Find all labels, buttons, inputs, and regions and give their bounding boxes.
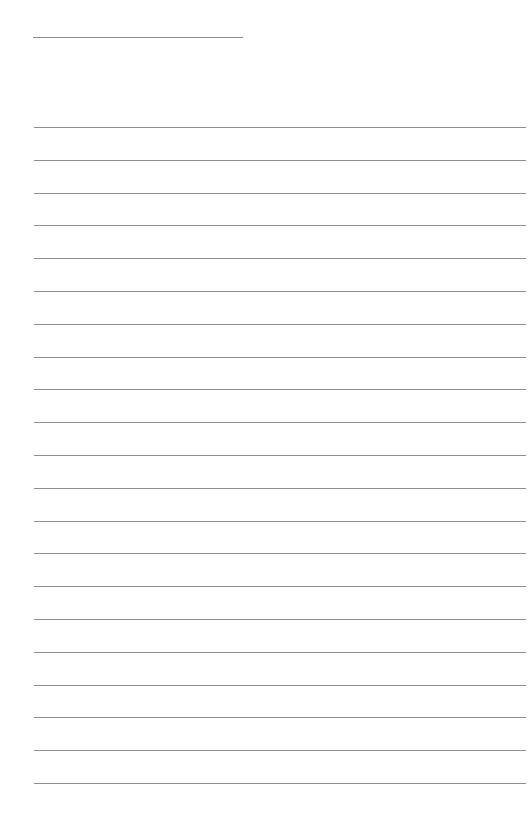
writing-line[interactable]: [34, 193, 526, 194]
writing-line[interactable]: [34, 750, 526, 751]
writing-line[interactable]: [34, 225, 526, 226]
writing-line[interactable]: [34, 717, 526, 718]
writing-line[interactable]: [34, 422, 526, 423]
writing-line[interactable]: [34, 127, 526, 128]
writing-line[interactable]: [34, 685, 526, 686]
writing-line[interactable]: [34, 291, 526, 292]
writing-line[interactable]: [34, 455, 526, 456]
writing-line[interactable]: [34, 488, 526, 489]
writing-line[interactable]: [34, 553, 526, 554]
writing-line[interactable]: [34, 160, 526, 161]
writing-line[interactable]: [34, 619, 526, 620]
writing-line[interactable]: [34, 652, 526, 653]
writing-line[interactable]: [34, 389, 526, 390]
lined-page: [0, 0, 532, 831]
writing-line[interactable]: [34, 521, 526, 522]
writing-line[interactable]: [34, 324, 526, 325]
writing-line[interactable]: [34, 783, 526, 784]
writing-line[interactable]: [34, 586, 526, 587]
writing-lines-area: [34, 0, 526, 831]
writing-line[interactable]: [34, 357, 526, 358]
writing-line[interactable]: [34, 258, 526, 259]
